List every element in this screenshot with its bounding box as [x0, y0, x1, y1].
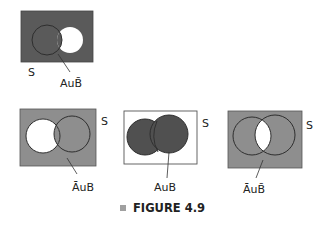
venn-bottom-center: S AuB — [124, 111, 209, 194]
caption-bullet-icon — [120, 205, 126, 211]
set-expression-label: AuB̄ — [60, 77, 82, 90]
venn-top: S AuB̄ — [21, 11, 93, 90]
universe-label: S — [28, 66, 35, 79]
universe-label: S — [101, 115, 108, 128]
universe-label: S — [202, 117, 209, 130]
venn-bottom-right: S ĀuB̄ — [228, 111, 313, 196]
set-expression-label: AuB — [154, 181, 176, 194]
set-expression-label: ĀuB — [72, 181, 94, 194]
venn-bottom-left: S ĀuB — [20, 109, 108, 194]
universe-label: S — [306, 119, 313, 132]
figure-caption: FIGURE 4.9 — [120, 201, 205, 215]
set-expression-label: ĀuB̄ — [243, 183, 265, 196]
figure-4-9-venn-diagrams: S AuB̄ S ĀuB S AuB S ĀuB̄ FIGURE 4.9 — [0, 0, 323, 231]
caption-text: FIGURE 4.9 — [133, 201, 205, 215]
